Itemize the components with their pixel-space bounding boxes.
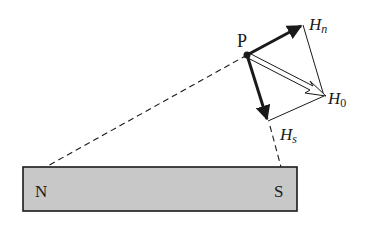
parallelogram-side-bottom — [268, 96, 324, 121]
label-h0: H0 — [327, 89, 346, 110]
bar-magnet — [23, 167, 297, 211]
label-hs: Hs — [279, 125, 297, 146]
south-pole-label: S — [274, 182, 283, 201]
label-hn: Hn — [308, 15, 327, 36]
magnet-field-diagram: N S P Hn H0 Hs — [0, 0, 369, 235]
vector-hn — [247, 26, 301, 55]
dashed-line-to-north — [44, 55, 247, 168]
point-p — [244, 52, 251, 59]
point-p-label: P — [237, 31, 247, 51]
north-pole-label: N — [35, 182, 47, 201]
